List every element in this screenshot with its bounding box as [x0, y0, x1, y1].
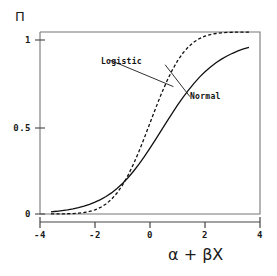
normal-leader-line — [165, 65, 190, 97]
xtick-label-minus4: -4 — [29, 230, 51, 240]
ytick-label-0-5: 0.5 — [5, 123, 31, 133]
figure-container: Π — [0, 0, 277, 276]
xtick-label-minus2: -2 — [84, 230, 106, 240]
normal-annotation-label: Normal — [190, 92, 221, 101]
xtick-label-2: 2 — [194, 230, 216, 240]
series-logistic-curve — [51, 47, 249, 212]
xtick-label-0: 0 — [139, 230, 161, 240]
series-group — [51, 32, 249, 214]
plot-frame — [40, 32, 260, 214]
ytick-label-0: 0 — [5, 209, 31, 219]
logistic-annotation-label: Logistic — [101, 57, 142, 66]
xtick-label-4: 4 — [249, 230, 271, 240]
x-axis-title: α + βX — [168, 245, 223, 264]
series-normal-curve — [51, 32, 249, 214]
ytick-label-1: 1 — [5, 35, 31, 45]
